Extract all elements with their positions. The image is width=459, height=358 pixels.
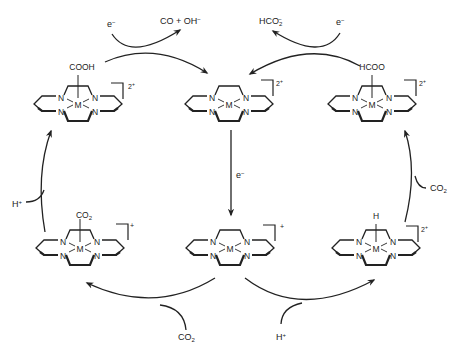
- svg-text:N: N: [94, 237, 100, 247]
- reagent-co2-bottom: CO2: [178, 332, 195, 345]
- product-formate: HCO2−: [259, 14, 282, 29]
- svg-text:N: N: [210, 251, 216, 261]
- reagent-proton-left: H+: [12, 197, 22, 209]
- reagent-co2-right: CO2: [430, 183, 447, 196]
- svg-text:N: N: [390, 251, 396, 261]
- arrow-hcoo-to-center: [250, 54, 360, 74]
- charge-top-left: 2+: [128, 80, 135, 91]
- svg-text:N: N: [386, 93, 392, 103]
- complex-bottom-right-hydride: NN NN M: [332, 224, 420, 265]
- svg-text:M: M: [372, 244, 379, 254]
- complex-bottom-left-co2: NN NN M: [36, 219, 128, 265]
- svg-text:N: N: [386, 107, 392, 117]
- svg-text:N: N: [209, 107, 215, 117]
- complex-bottom-center: NN NN M: [186, 225, 275, 265]
- svg-text:M: M: [76, 244, 83, 254]
- svg-text:N: N: [58, 93, 64, 103]
- complex-top-right-hcoo: NN NN M: [328, 75, 416, 121]
- svg-text:N: N: [356, 251, 362, 261]
- arrow-center-to-co2-adduct: [87, 278, 215, 298]
- charge-top-center: 2+: [276, 77, 283, 88]
- arrow-side-formate-release: [273, 31, 340, 47]
- ligand-hydride: H: [373, 212, 379, 221]
- arrow-cooh-to-center: [105, 53, 207, 73]
- arrow-side-proton-in: [281, 303, 302, 324]
- svg-text:N: N: [356, 237, 362, 247]
- svg-text:M: M: [74, 100, 81, 110]
- ligand-co2: CO2: [76, 211, 92, 223]
- svg-text:N: N: [92, 93, 98, 103]
- reagent-electron-top-left: e−: [107, 17, 116, 29]
- svg-text:N: N: [244, 237, 250, 247]
- svg-text:N: N: [60, 237, 66, 247]
- arrow-side-co2-right: [415, 176, 426, 188]
- svg-text:N: N: [244, 251, 250, 261]
- complex-top-left-cooh: NN NN M: [34, 75, 123, 121]
- svg-text:N: N: [243, 107, 249, 117]
- svg-text:N: N: [390, 237, 396, 247]
- reagent-electron-top-right: e−: [336, 15, 345, 27]
- catalytic-cycle-diagram: NN NN M NN NN M NN NN M NN NN M NN NN M: [0, 0, 459, 358]
- svg-text:N: N: [60, 251, 66, 261]
- svg-text:N: N: [58, 107, 64, 117]
- svg-text:N: N: [92, 107, 98, 117]
- arrow-side-co-release: [112, 30, 180, 47]
- arrow-side-co2-in: [160, 305, 186, 330]
- svg-text:N: N: [243, 93, 249, 103]
- svg-text:N: N: [352, 93, 358, 103]
- charge-bottom-left: +: [130, 222, 134, 230]
- ligand-hcoo: HCOO: [359, 63, 385, 72]
- svg-text:M: M: [368, 100, 375, 110]
- svg-text:M: M: [226, 244, 233, 254]
- complex-top-center: NN NN M: [185, 80, 273, 121]
- svg-text:N: N: [352, 107, 358, 117]
- arrow-hydride-to-hcoo: [405, 131, 412, 222]
- svg-text:N: N: [209, 93, 215, 103]
- svg-text:M: M: [225, 100, 232, 110]
- charge-bottom-center: +: [280, 223, 284, 231]
- arrow-center-to-hydride: [245, 278, 374, 300]
- reagent-proton-bottom: H+: [276, 330, 286, 342]
- charge-top-right: 2+: [419, 77, 426, 88]
- reagent-electron-center: e−: [236, 168, 245, 180]
- svg-text:N: N: [210, 237, 216, 247]
- product-co-hydroxide: CO + OH−: [160, 14, 201, 26]
- svg-text:N: N: [94, 251, 100, 261]
- arrow-co2-adduct-to-cooh: [41, 131, 51, 232]
- ligand-cooh: COOH: [69, 63, 95, 72]
- charge-bottom-right: 2+: [421, 223, 428, 234]
